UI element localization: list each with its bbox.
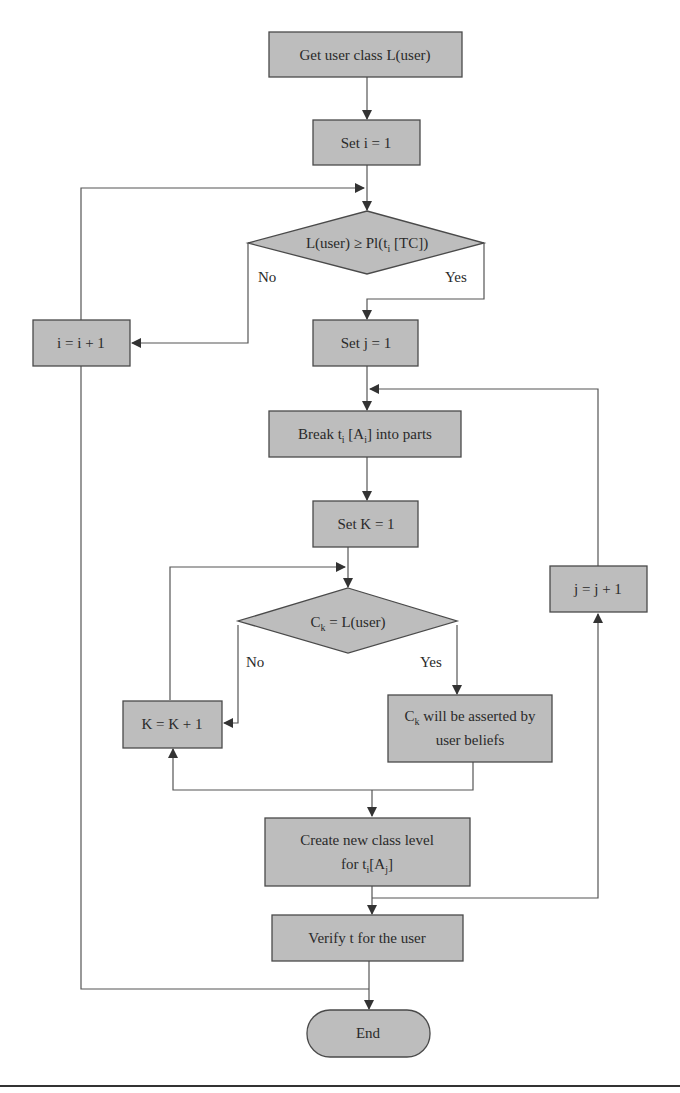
edge-decision-ck-no-to-inc-k: [224, 625, 238, 723]
node-get-class-label: Get user class L(user): [299, 47, 430, 64]
node-create-level: Create new class level for ti[Aj]: [265, 818, 470, 886]
node-decision-level: L(user) ≥ Pl(ti [TC]): [248, 211, 484, 274]
edge-label-d1-no: No: [258, 269, 276, 285]
node-set-j: Set j = 1: [313, 320, 418, 366]
node-decision-ck: Ck = L(user): [238, 588, 457, 653]
node-verify-label: Verify t for the user: [308, 930, 425, 946]
node-assert-ck-line2: user beliefs: [436, 732, 505, 748]
node-inc-i-label: i = i + 1: [57, 335, 105, 351]
node-get-class: Get user class L(user): [269, 32, 462, 77]
edge-inc-i-to-end: [81, 366, 369, 989]
node-inc-j-label: j = j + 1: [573, 581, 622, 597]
node-set-k-label: Set K = 1: [337, 516, 394, 532]
node-set-i-label: Set i = 1: [341, 135, 392, 151]
node-end: End: [307, 1010, 430, 1057]
edge-decision-no-to-inc-i: [132, 243, 248, 343]
node-inc-i: i = i + 1: [33, 320, 130, 366]
edge-label-d1-yes: Yes: [445, 269, 467, 285]
node-inc-k-label: K = K + 1: [141, 716, 202, 732]
flowchart-canvas: Get user class L(user) Set i = 1 L(user)…: [0, 0, 680, 1093]
node-set-k: Set K = 1: [313, 501, 418, 547]
node-create-level-line1: Create new class level: [300, 832, 434, 848]
node-break-parts: Break ti [Ai] into parts: [269, 411, 461, 457]
edge-label-d2-yes: Yes: [420, 654, 442, 670]
node-end-label: End: [356, 1025, 381, 1041]
node-inc-k: K = K + 1: [123, 701, 222, 748]
node-set-i: Set i = 1: [313, 120, 420, 165]
node-verify: Verify t for the user: [272, 915, 463, 961]
node-assert-ck: Ck will be asserted by user beliefs: [388, 695, 552, 762]
edge-label-d2-no: No: [246, 654, 264, 670]
node-set-j-label: Set j = 1: [341, 335, 392, 351]
node-inc-j: j = j + 1: [550, 566, 647, 612]
